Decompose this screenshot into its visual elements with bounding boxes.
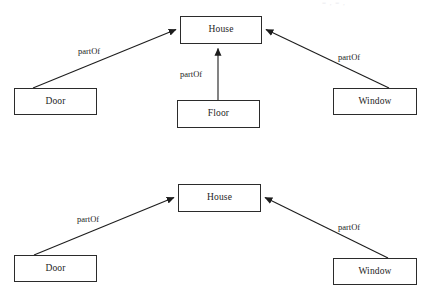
edge-line-window-partof-house-bottom xyxy=(265,198,388,259)
edge-vector-layer xyxy=(0,0,431,296)
node-house-bottom[interactable]: House xyxy=(178,184,261,212)
edge-line-door-partof-house-top xyxy=(33,30,176,89)
edge-label-window-partof-house-bottom: partOf xyxy=(338,223,360,232)
edge-label-door-partof-house-top: partOf xyxy=(78,47,100,56)
page-corner-artifact: = , = , xyxy=(322,0,346,7)
node-house-top[interactable]: House xyxy=(180,16,262,44)
node-label: Door xyxy=(45,97,65,107)
node-window-bottom[interactable]: Window xyxy=(333,258,417,285)
node-label: Window xyxy=(358,267,391,277)
node-label: House xyxy=(208,25,233,35)
edge-line-door-partof-house-bottom xyxy=(34,198,174,256)
node-window-top[interactable]: Window xyxy=(333,88,417,115)
node-label: House xyxy=(207,193,232,203)
edge-label-door-partof-house-bottom: partOf xyxy=(77,215,99,224)
diagram-canvas: = , = , House Door Floor Window partOf p… xyxy=(0,0,431,296)
node-door-bottom[interactable]: Door xyxy=(14,255,97,282)
node-floor-top[interactable]: Floor xyxy=(177,100,260,128)
edge-line-window-partof-house-top xyxy=(266,30,389,89)
edge-label-window-partof-house-top: partOf xyxy=(338,53,360,62)
node-label: Window xyxy=(358,97,391,107)
node-label: Floor xyxy=(208,109,229,119)
node-door-top[interactable]: Door xyxy=(14,88,97,115)
node-label: Door xyxy=(45,264,65,274)
edge-label-floor-partof-house-top: partOf xyxy=(180,70,202,79)
